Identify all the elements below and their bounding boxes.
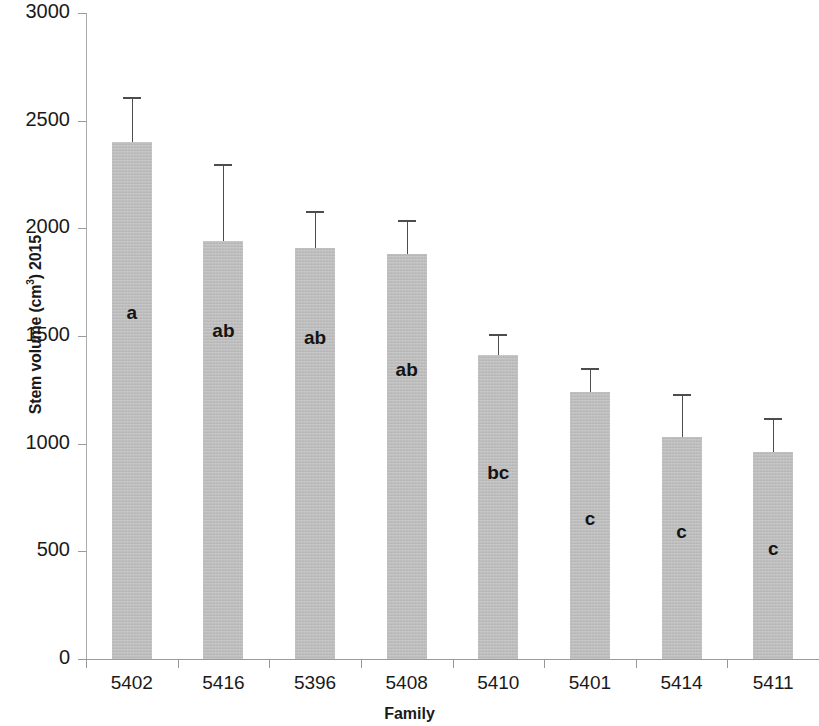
y-axis-tick-label: 3000 <box>26 0 71 23</box>
error-bar-cap-5401 <box>581 368 599 370</box>
x-axis-tick-mark <box>86 660 87 668</box>
significance-letter-5401: c <box>560 508 620 530</box>
significance-letter-5396: ab <box>285 327 345 349</box>
bar-5396 <box>295 248 335 659</box>
error-bar-cap-5402 <box>123 97 141 99</box>
error-bar-5410 <box>498 334 499 356</box>
y-axis-tick-label: 2000 <box>26 215 71 238</box>
x-axis-label-5414: 5414 <box>637 672 727 694</box>
y-axis-tick-label: 500 <box>37 538 70 561</box>
significance-letter-5414: c <box>652 521 712 543</box>
y-axis-tick-mark <box>78 336 86 337</box>
bar-5414 <box>662 437 702 659</box>
error-bar-5402 <box>132 97 133 142</box>
error-bar-cap-5414 <box>673 394 691 396</box>
x-axis-tick-mark <box>636 660 637 668</box>
significance-letter-5416: ab <box>193 320 253 342</box>
x-axis-tick-mark <box>544 660 545 668</box>
bar-chart-figure: Stem volume (cm3) 2015 30002500200015001… <box>0 0 819 726</box>
y-axis-tick-label: 0 <box>59 646 70 669</box>
error-bar-cap-5411 <box>764 418 782 420</box>
bar-5408 <box>387 254 427 659</box>
y-axis-tick-mark <box>78 444 86 445</box>
error-bar-cap-5416 <box>214 164 232 166</box>
y-axis-tick-label: 2500 <box>26 108 71 131</box>
significance-letter-5408: ab <box>377 359 437 381</box>
x-axis-title: Family <box>0 705 819 723</box>
x-axis-tick-mark <box>361 660 362 668</box>
y-axis-tick-mark <box>78 659 86 660</box>
bar-5416 <box>203 241 243 659</box>
error-bar-cap-5410 <box>489 334 507 336</box>
x-axis-label-5396: 5396 <box>270 672 360 694</box>
x-axis-label-5411: 5411 <box>728 672 818 694</box>
error-bar-5401 <box>590 368 591 392</box>
x-axis-label-5410: 5410 <box>453 672 543 694</box>
x-axis-tick-mark <box>269 660 270 668</box>
significance-letter-5410: bc <box>468 462 528 484</box>
x-axis-tick-mark <box>178 660 179 668</box>
y-axis-tick-mark <box>78 551 86 552</box>
error-bar-5416 <box>223 164 224 242</box>
x-axis-label-5402: 5402 <box>87 672 177 694</box>
x-axis-label-5401: 5401 <box>545 672 635 694</box>
bar-5402 <box>112 142 152 659</box>
x-axis-label-5408: 5408 <box>362 672 452 694</box>
y-axis-tick-label: 1500 <box>26 323 71 346</box>
y-axis-tick-mark <box>78 121 86 122</box>
y-axis-line <box>86 13 87 659</box>
x-axis-label-5416: 5416 <box>178 672 268 694</box>
error-bar-5411 <box>773 418 774 452</box>
error-bar-cap-5408 <box>398 220 416 222</box>
error-bar-5414 <box>682 394 683 437</box>
x-axis-tick-mark <box>453 660 454 668</box>
error-bar-5408 <box>407 220 408 254</box>
bar-5410 <box>478 355 518 659</box>
y-axis-tick-mark <box>78 13 86 14</box>
significance-letter-5402: a <box>102 302 162 324</box>
error-bar-5396 <box>315 211 316 248</box>
significance-letter-5411: c <box>743 538 803 560</box>
error-bar-cap-5396 <box>306 211 324 213</box>
y-axis-tick-mark <box>78 228 86 229</box>
y-axis-tick-label: 1000 <box>26 431 71 454</box>
x-axis-tick-mark <box>727 660 728 668</box>
